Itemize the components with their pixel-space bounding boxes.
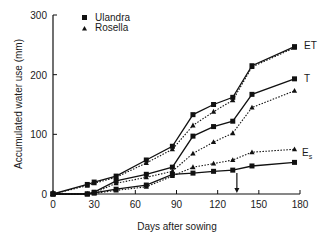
series-lines (50, 44, 297, 196)
y-tick-label: 0 (41, 189, 47, 200)
legend-rosella: Rosella (95, 22, 129, 33)
x-tick-label: 120 (209, 199, 226, 210)
square-marker-icon (211, 169, 216, 174)
square-marker-icon (230, 168, 235, 173)
square-marker-icon (230, 119, 235, 124)
series-t-ulandra (51, 76, 298, 196)
label-et: ET (304, 40, 317, 51)
square-marker-icon (249, 92, 254, 97)
x-tick-label: 30 (89, 199, 101, 210)
triangle-marker-icon (292, 146, 297, 151)
label-es-sub: s (309, 153, 313, 160)
x-axis-label: Days after sowing (137, 221, 216, 232)
y-tick-label: 100 (30, 129, 47, 140)
square-marker-icon (292, 160, 297, 165)
x-tick-label: 180 (292, 199, 309, 210)
series-t-rosella (50, 88, 297, 196)
square-marker-icon (82, 15, 87, 20)
triangle-marker-icon (190, 151, 195, 156)
x-tick-label: 0 (50, 199, 56, 210)
legend: Ulandra Rosella (82, 12, 130, 33)
square-marker-icon (190, 171, 195, 176)
x-tick-label: 60 (130, 199, 142, 210)
triangle-marker-icon (190, 123, 195, 128)
x-tick-label: 90 (171, 199, 183, 210)
triangle-marker-icon (292, 88, 297, 93)
label-t: T (304, 73, 310, 84)
down-arrow-annotation (234, 173, 239, 193)
triangle-marker-icon (230, 130, 235, 135)
triangle-marker-icon (211, 161, 216, 166)
water-use-chart: 0100200300 0306090120150180 Accumulated … (0, 0, 326, 239)
label-es: Es (302, 147, 313, 160)
y-tick-label: 300 (30, 10, 47, 21)
square-marker-icon (190, 134, 195, 139)
y-axis: 0100200300 (30, 10, 57, 200)
x-tick-label: 150 (250, 199, 267, 210)
triangle-marker-icon (190, 164, 195, 169)
arrow-down-icon (234, 188, 239, 193)
square-marker-icon (292, 76, 297, 81)
square-marker-icon (249, 163, 254, 168)
triangle-marker-icon (82, 26, 87, 31)
square-marker-icon (190, 112, 195, 117)
y-tick-label: 200 (30, 70, 47, 81)
square-marker-icon (211, 124, 216, 129)
square-marker-icon (211, 102, 216, 107)
y-axis-label: Accumulated water use (mm) (13, 39, 24, 169)
